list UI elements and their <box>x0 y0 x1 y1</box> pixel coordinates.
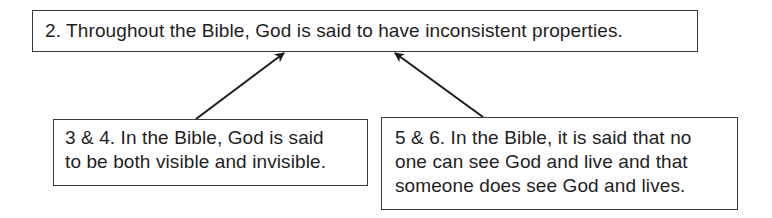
premise-box-3-4: 3 & 4. In the Bible, God is said to be b… <box>53 119 368 186</box>
premise-3-4-line-1: 3 & 4. In the Bible, God is said <box>65 126 367 150</box>
premise-5-6-line-1: 5 & 6. In the Bible, it is said that no <box>395 126 737 150</box>
premise-5-6-line-3: someone does see God and lives. <box>395 174 737 198</box>
premise-5-6-line-2: one can see God and live and that <box>395 150 737 174</box>
arrow-premise-3-4-to-conclusion <box>196 53 284 119</box>
premise-box-5-6: 5 & 6. In the Bible, it is said that no … <box>381 117 738 210</box>
premise-3-4-line-2: to be both visible and invisible. <box>65 150 367 174</box>
conclusion-box: 2. Throughout the Bible, God is said to … <box>32 10 698 52</box>
conclusion-text: 2. Throughout the Bible, God is said to … <box>45 19 697 43</box>
arrow-premise-5-6-to-conclusion <box>395 53 483 117</box>
